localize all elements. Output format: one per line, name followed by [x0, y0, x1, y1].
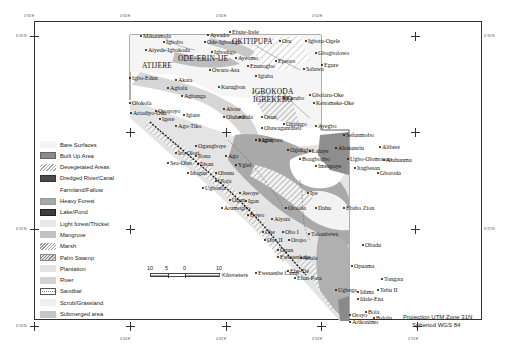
place-label: Gbogbolowo: [318, 50, 349, 56]
legend-item: Scrub/Grassland: [40, 298, 103, 307]
place-label: Obo I: [285, 229, 299, 235]
settlement-dot-icon: [315, 52, 317, 54]
scale-label-10-right: 10: [216, 265, 222, 271]
settlement-dot-icon: [175, 79, 177, 81]
legend-swatch-icon: [40, 277, 56, 284]
settlement-dot-icon: [255, 139, 257, 141]
place-label: Yglei: [238, 162, 251, 168]
settlement-dot-icon: [354, 167, 356, 169]
place-label: Efun-Pora: [297, 275, 322, 281]
legend-label: Submerged area: [60, 311, 103, 317]
settlement-dot-icon: [383, 159, 385, 161]
settlement-dot-icon: [181, 95, 183, 97]
settlement-dot-icon: [183, 114, 185, 116]
legend-swatch-icon: [40, 175, 56, 182]
settlement-dot-icon: [300, 257, 302, 259]
legend-item: Dredged River/Canal: [40, 174, 114, 183]
graticule-cross-icon: [126, 128, 135, 137]
place-label: Opopoyo: [158, 108, 180, 114]
place-label: Awoye: [242, 190, 259, 196]
place-label: Epeoro: [278, 58, 295, 64]
place-label: Balolu: [376, 315, 392, 321]
scale-label-5: 5: [165, 265, 168, 271]
settlement-dot-icon: [225, 155, 227, 157]
place-label: Ogun: [232, 197, 245, 203]
scale-label-0: 0: [183, 265, 186, 271]
tick-label-right-1: 6°25'N: [484, 227, 494, 231]
legend-swatch-icon: [40, 186, 56, 193]
settlement-dot-icon: [343, 134, 345, 136]
place-label: Ebute-Irele: [232, 29, 259, 35]
legend-swatch-icon: [40, 265, 56, 272]
tick-label-bottom-3: 4°55'E: [408, 337, 418, 341]
legend-swatch-icon: [40, 299, 56, 306]
settlement-dot-icon: [282, 231, 284, 233]
settlement-dot-icon: [245, 200, 247, 202]
legend-item: Submerged area: [40, 310, 103, 319]
place-label: Gbolaru-Oke: [312, 92, 344, 98]
place-label: Ago: [228, 153, 238, 159]
legend-item: Heavy Forest: [40, 197, 94, 206]
settlement-dot-icon: [335, 289, 337, 291]
place-label: Saluwa: [306, 66, 324, 72]
settlement-dot-icon: [377, 289, 379, 291]
settlement-dot-icon: [140, 35, 142, 37]
legend-label: Devegetated Areas: [60, 164, 109, 170]
place-label: Arikonimo: [352, 319, 378, 325]
graticule-cross-icon: [411, 225, 420, 234]
place-label: Ago-Tiko: [178, 123, 201, 129]
place-label: Takanbewa: [311, 231, 338, 237]
settlement-dot-icon: [175, 125, 177, 127]
settlement-dot-icon: [262, 231, 264, 233]
settlement-dot-icon: [357, 298, 359, 300]
legend-label: Lake/Pond: [60, 209, 88, 215]
settlement-dot-icon: [343, 207, 345, 209]
place-label: Osun: [264, 114, 277, 120]
settlement-dot-icon: [235, 57, 237, 59]
tick-label-bottom-1: 4°45'E: [216, 337, 226, 341]
place-label: Ipe: [310, 190, 318, 196]
place-label: Igbo-Edun: [132, 75, 158, 81]
place-label: Arumogbo: [224, 205, 250, 211]
graticule-cross-icon: [126, 322, 135, 331]
settlement-dot-icon: [283, 97, 285, 99]
place-label: Dahu: [318, 205, 331, 211]
place-label: Enunogbo: [250, 63, 275, 69]
legend-item: River: [40, 276, 74, 285]
place-label: Ayeomo: [238, 55, 258, 61]
place-label: Obe: [265, 229, 275, 235]
settlement-dot-icon: [275, 60, 277, 62]
settlement-dot-icon: [167, 162, 169, 164]
place-label: Abule: [303, 255, 318, 261]
legend-swatch-icon: [40, 243, 56, 250]
place-label: Orooba: [288, 205, 306, 211]
place-label: Tongata: [384, 276, 403, 282]
graticule-cross-icon: [30, 322, 39, 331]
place-label: Olokola: [132, 100, 151, 106]
graticule-cross-icon: [222, 128, 231, 137]
settlement-dot-icon: [247, 65, 249, 67]
place-label: Gboroda: [380, 170, 401, 176]
legend-swatch-icon: [40, 311, 56, 318]
settlement-dot-icon: [351, 265, 353, 267]
place-label: Aiuhunmu: [386, 157, 412, 163]
legend-swatch-icon: [40, 141, 56, 148]
place-label: Ayeadre: [210, 32, 230, 38]
legend-label: Heavy Forest: [60, 198, 94, 204]
tick-label-left-2: 6°20'N: [16, 324, 26, 328]
settlement-dot-icon: [362, 244, 364, 246]
legend-label: River: [60, 277, 74, 283]
legend-label: Farmland/Fallow: [60, 187, 103, 193]
place-label: Oloja: [218, 178, 231, 184]
settlement-dot-icon: [279, 40, 281, 42]
settlement-dot-icon: [207, 34, 209, 36]
legend-swatch-icon: [40, 209, 56, 216]
settlement-dot-icon: [187, 172, 189, 174]
settlement-dot-icon: [255, 272, 257, 274]
graticule-cross-icon: [411, 32, 420, 41]
place-label: Obadu: [365, 242, 381, 248]
settlement-dot-icon: [379, 146, 381, 148]
legend-item: Mangrove: [40, 230, 86, 239]
place-label: Ebe-Tie: [290, 268, 309, 274]
place-label: Kurugbon: [221, 84, 245, 90]
